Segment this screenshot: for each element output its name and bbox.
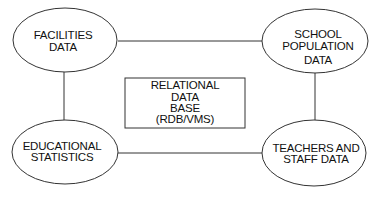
node-educational-statistics: EDUCATIONAL STATISTICS bbox=[12, 120, 118, 184]
facilities-line-2: DATA bbox=[49, 41, 78, 53]
center-line-1: RELATIONAL bbox=[151, 79, 221, 91]
node-facilities-data: FACILITIES DATA bbox=[13, 8, 117, 72]
teachers-line-2: STAFF DATA bbox=[283, 153, 349, 165]
facilities-line-1: FACILITIES bbox=[34, 29, 93, 41]
node-school-population-data: SCHOOL POPULATION DATA bbox=[262, 9, 368, 73]
school-line-2: POPULATION bbox=[282, 40, 353, 52]
database-diagram: RELATIONAL DATA BASE (RDB/VMS) FACILITIE… bbox=[0, 0, 378, 199]
center-line-4: (RDB/VMS) bbox=[156, 113, 215, 125]
node-teachers-staff-data: TEACHERS AND STAFF DATA bbox=[262, 120, 366, 186]
relational-database-box: RELATIONAL DATA BASE (RDB/VMS) bbox=[125, 78, 245, 128]
school-line-3: DATA bbox=[304, 54, 333, 66]
school-line-1: SCHOOL bbox=[294, 28, 342, 40]
educational-line-2: STATISTICS bbox=[31, 151, 94, 163]
